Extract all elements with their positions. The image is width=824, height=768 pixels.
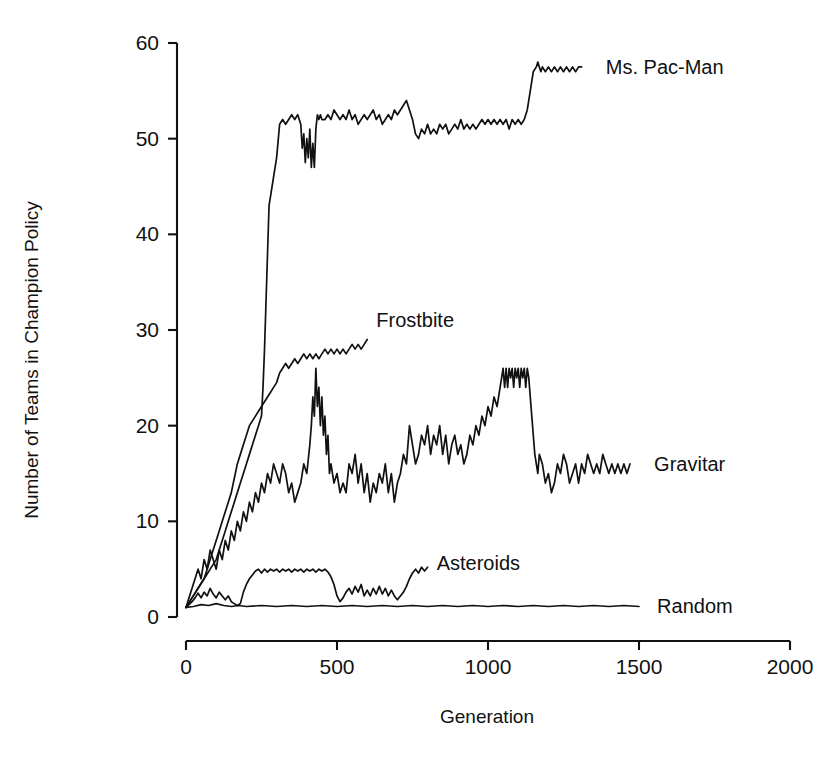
series-line-random	[186, 604, 639, 608]
x-tick-group	[186, 641, 790, 650]
x-tick-label: 1500	[616, 655, 663, 678]
line-chart: 0102030405060 0500100015002000 Ms. Pac-M…	[0, 0, 824, 768]
series-label-frostbite: Frostbite	[376, 309, 454, 331]
series-group	[186, 62, 639, 607]
y-tick-label-group: 0102030405060	[136, 31, 159, 628]
x-axis-title: Generation	[440, 706, 534, 727]
y-tick-label: 20	[136, 414, 159, 437]
x-tick-label: 2000	[767, 655, 814, 678]
chart-container: 0102030405060 0500100015002000 Ms. Pac-M…	[0, 0, 824, 768]
y-tick-label: 0	[147, 605, 159, 628]
y-tick-group	[168, 43, 177, 617]
y-tick-label: 50	[136, 127, 159, 150]
series-line-asteroids	[186, 567, 428, 607]
series-line-ms-pac-man	[186, 62, 582, 607]
y-tick-label: 30	[136, 318, 159, 341]
x-axis: 0500100015002000	[180, 641, 813, 678]
y-axis-title: Number of Teams in Champion Policy	[21, 201, 42, 519]
x-tick-label: 1000	[465, 655, 512, 678]
y-tick-label: 10	[136, 509, 159, 532]
series-line-gravitar	[186, 368, 630, 607]
x-tick-label: 500	[319, 655, 354, 678]
series-label-random: Random	[657, 595, 733, 617]
x-tick-label-group: 0500100015002000	[180, 655, 813, 678]
y-axis: 0102030405060	[136, 31, 177, 628]
series-label-asteroids: Asteroids	[437, 552, 520, 574]
y-tick-label: 40	[136, 222, 159, 245]
x-tick-label: 0	[180, 655, 192, 678]
series-label-ms-pac-man: Ms. Pac-Man	[606, 56, 724, 78]
series-label-group: Ms. Pac-ManFrostbiteGravitarAsteroidsRan…	[376, 56, 732, 617]
y-tick-label: 60	[136, 31, 159, 54]
series-label-gravitar: Gravitar	[654, 453, 725, 475]
